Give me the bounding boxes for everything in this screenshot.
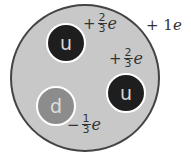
charge-sign: − [67,116,80,134]
charge-fraction: 2 3 [124,48,133,69]
charge-fraction: 1 3 [82,114,91,135]
charge-unit: e [92,115,101,134]
total-charge-unit: e [173,16,182,34]
total-charge-sign: + [146,16,159,34]
denominator: 3 [125,59,132,69]
charge-sign: + [109,50,122,68]
quark-label: u [120,84,132,103]
up-quark-1: u [46,23,86,63]
quark-label: d [50,97,62,116]
charge-unit: e [134,49,143,68]
charge-sign: + [83,15,96,33]
denominator: 3 [83,125,90,135]
up-quark-1-charge: + 2 3 e [83,13,117,34]
charge-unit: e [108,14,117,33]
down-quark-charge: − 1 3 e [67,114,101,135]
up-quark-2-charge: + 2 3 e [109,48,143,69]
total-charge: + 1e [146,16,182,34]
total-charge-value: 1 [163,16,173,34]
denominator: 3 [99,24,106,34]
quark-label: u [60,34,72,53]
charge-fraction: 2 3 [98,13,107,34]
up-quark-2: u [106,73,146,113]
